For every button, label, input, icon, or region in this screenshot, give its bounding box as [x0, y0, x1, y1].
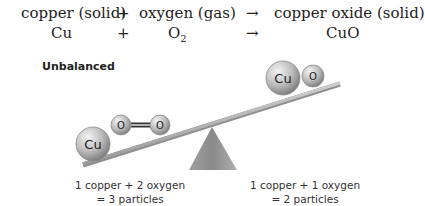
left-caption: 1 copper + 2 oxygen = 3 particles: [60, 178, 200, 206]
fulcrum-triangle: [189, 127, 237, 170]
svg-text:Cu: Cu: [274, 71, 291, 86]
left-caption-line2: = 3 particles: [60, 192, 200, 206]
right-caption-line2: = 2 particles: [235, 192, 375, 206]
svg-text:Cu: Cu: [84, 137, 101, 152]
svg-text:O: O: [156, 120, 164, 131]
right-caption-line1: 1 copper + 1 oxygen: [235, 178, 375, 192]
svg-text:O: O: [117, 120, 125, 131]
right-caption: 1 copper + 1 oxygen = 2 particles: [235, 178, 375, 206]
left-caption-line1: 1 copper + 2 oxygen: [60, 178, 200, 192]
svg-text:O: O: [309, 71, 317, 82]
